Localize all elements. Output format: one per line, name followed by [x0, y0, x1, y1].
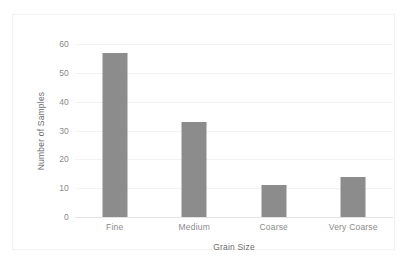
y-axis-tick-labels: 0102030405060	[45, 44, 69, 217]
y-tick-label: 30	[45, 126, 69, 135]
bar-coarse[interactable]	[261, 185, 286, 217]
bar-medium[interactable]	[182, 122, 207, 217]
bar-slot	[155, 44, 235, 217]
y-tick-label: 0	[45, 213, 69, 222]
y-tick-label: 50	[45, 69, 69, 78]
y-tick-label: 20	[45, 155, 69, 164]
y-tick-label: 40	[45, 97, 69, 106]
bars-layer	[75, 44, 393, 217]
x-axis-title: Grain Size	[75, 242, 393, 252]
x-tick-label: Very Coarse	[329, 222, 378, 232]
chart-frame: Number of Samples 0102030405060 FineMedi…	[12, 14, 395, 250]
bar-fine[interactable]	[102, 53, 127, 217]
y-tick-label: 60	[45, 40, 69, 49]
bar-slot	[314, 44, 394, 217]
x-tick-label: Fine	[106, 222, 123, 232]
bar-very-coarse[interactable]	[341, 177, 366, 217]
x-axis-tick-labels: FineMediumCoarseVery Coarse	[75, 222, 393, 236]
gridline	[75, 217, 393, 218]
y-tick-label: 10	[45, 184, 69, 193]
x-tick-label: Coarse	[259, 222, 288, 232]
plot-area	[75, 44, 393, 217]
bar-slot	[75, 44, 155, 217]
x-tick-label: Medium	[179, 222, 210, 232]
bar-slot	[234, 44, 314, 217]
